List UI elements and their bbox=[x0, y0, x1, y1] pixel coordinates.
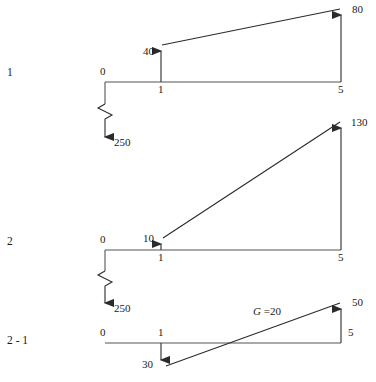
panel-2-tick-5: 5 bbox=[338, 252, 344, 263]
panel-1-group bbox=[98, 9, 341, 137]
panel-3-tick-1: 1 bbox=[158, 327, 164, 338]
panel-3-gradient-annotation: G =20 bbox=[253, 306, 281, 317]
panel-2-tick-1: 1 bbox=[158, 252, 164, 263]
panel-2-slope-line bbox=[163, 122, 340, 238]
panel-2-value-10: 10 bbox=[143, 233, 154, 244]
diagram-root: 1 0 1 5 40 80 250 2 0 1 5 10 130 250 2 -… bbox=[0, 0, 376, 382]
diagram-canvas bbox=[0, 0, 376, 382]
panel-3-tick-5: 5 bbox=[348, 327, 354, 338]
panel-1-tick-1: 1 bbox=[158, 84, 164, 95]
panel-3-value-50: 50 bbox=[352, 297, 363, 308]
panel-2-value-130: 130 bbox=[351, 117, 368, 128]
panel-3-value-30: 30 bbox=[142, 359, 153, 370]
panel-1-origin-label: 0 bbox=[100, 66, 106, 77]
row-label-2: 2 bbox=[7, 236, 13, 247]
panel-2-value-250: 250 bbox=[114, 303, 131, 314]
row-label-1: 1 bbox=[7, 67, 13, 78]
panel-3-origin-label: 0 bbox=[100, 327, 106, 338]
panel-3-group bbox=[105, 303, 341, 366]
panel-2-group bbox=[98, 122, 341, 303]
panel-1-tick-5: 5 bbox=[338, 84, 344, 95]
panel-1-value-250: 250 bbox=[114, 137, 131, 148]
panel-1-slope-line bbox=[162, 9, 340, 45]
panel-1-break-zigzag bbox=[98, 104, 112, 137]
panel-1-value-40: 40 bbox=[143, 46, 154, 57]
gradient-symbol: G bbox=[253, 305, 261, 317]
gradient-value: =20 bbox=[264, 305, 281, 317]
panel-2-origin-label: 0 bbox=[100, 234, 106, 245]
panel-1-value-80: 80 bbox=[352, 4, 363, 15]
panel-2-break-zigzag bbox=[98, 271, 112, 303]
row-label-2-minus-1: 2 - 1 bbox=[7, 335, 28, 346]
